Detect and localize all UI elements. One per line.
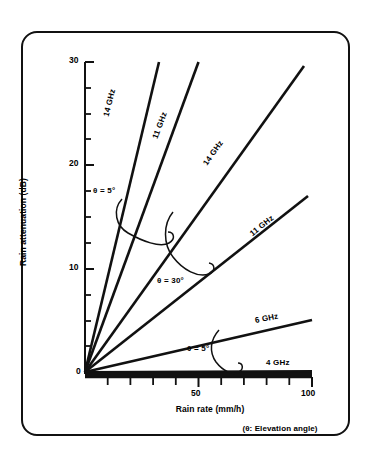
figure-container: 30 20 10 0 50 100 Rain attenuation (dB) … (0, 0, 377, 474)
annotation-theta-5-lower: θ = 5° (187, 344, 209, 353)
y-tick-label-30: 30 (69, 55, 78, 65)
annotation-theta-5-upper: θ = 5° (93, 186, 115, 195)
y-axis-title: Rain attenuation (dB) (18, 162, 28, 282)
y-tick-label-10: 10 (69, 262, 78, 272)
chart-canvas (0, 0, 377, 474)
chart-footnote: (θ: Elevation angle) (205, 424, 355, 433)
series-line-4ghz-5deg (85, 371, 312, 372)
y-tick-label-0: 0 (76, 366, 81, 376)
y-tick-label-20: 20 (69, 158, 78, 168)
x-tick-label-100: 100 (301, 388, 315, 398)
y-axis (85, 62, 94, 374)
annotation-braces (116, 199, 242, 373)
series-line-11ghz-5deg (85, 62, 199, 372)
x-axis (85, 372, 312, 387)
series-label-4ghz-5deg: 4 GHz (266, 358, 290, 367)
annotation-theta-30: θ = 30° (157, 276, 184, 285)
brace-theta-30 (166, 212, 214, 275)
x-axis-title: Rain rate (mm/h) (140, 404, 280, 414)
series-lines (85, 62, 312, 372)
x-tick-label-50: 50 (191, 388, 200, 398)
series-line-14ghz-5deg (85, 62, 159, 372)
